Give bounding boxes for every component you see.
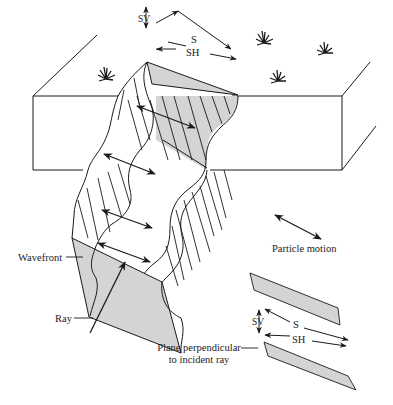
wavefront-label: Wavefront <box>18 252 62 264</box>
perpendicular-plane <box>250 273 356 390</box>
particle-motion-label: Particle motion <box>272 243 336 255</box>
bottom-sv-label: SV <box>252 316 264 328</box>
top-sv-label: SV <box>138 13 150 25</box>
plane-label-line2: to incident ray <box>155 354 243 366</box>
top-s-label: S <box>191 34 197 46</box>
ray-label: Ray <box>55 313 72 325</box>
wavefront-face <box>72 238 183 353</box>
bottom-sh-label: SH <box>292 334 305 346</box>
top-sh-label: SH <box>186 47 199 59</box>
plane-label-line1: Plane perpendicular <box>155 342 243 354</box>
bottom-s-label: S <box>293 319 299 331</box>
